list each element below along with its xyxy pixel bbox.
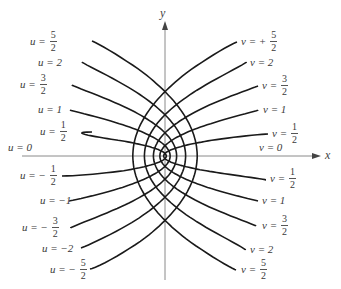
u-label-top-2: u = 32 [20, 73, 47, 96]
v-label-bottom-2: v = 32 [262, 214, 288, 237]
v-label-bottom-0: v = 12 [270, 167, 296, 190]
fraction: 32 [52, 216, 59, 239]
fraction: 32 [281, 74, 288, 97]
v-label-top-2: v = 32 [262, 74, 288, 97]
parabolic-coordinates-diagram: x y u = 0 v = 0 u = 12u = − 12u = 1u = −… [0, 0, 341, 289]
u-label-top-3: u = 2 [38, 57, 62, 68]
u-label-top-0: u = 12 [40, 120, 67, 143]
v-label-bottom-4: v = 52 [241, 258, 267, 281]
u-zero-label: u = 0 [8, 142, 32, 153]
y-axis-arrow-icon [162, 21, 168, 30]
fraction: 12 [291, 122, 298, 145]
u-label-top-4: u = 52 [30, 30, 57, 53]
x-axis-arrow-icon [312, 153, 321, 159]
fraction: 52 [260, 258, 267, 281]
fraction: 52 [50, 30, 57, 53]
x-axis-label: x [325, 148, 330, 163]
v-label-top-0: v = 12 [272, 122, 298, 145]
fraction: 12 [60, 120, 67, 143]
u-curve-family [62, 41, 197, 269]
u-curve-0 [62, 132, 166, 176]
u-label-bottom-2: u = − 32 [22, 216, 59, 239]
v-label-bottom-3: v = 2 [250, 244, 273, 255]
v-label-top-4: v = + 52 [241, 30, 277, 53]
v-label-top-3: v = 2 [250, 57, 273, 68]
u-label-bottom-1: u = −1 [40, 195, 71, 206]
fraction: 32 [40, 73, 47, 96]
fraction: 52 [270, 30, 277, 53]
v-label-bottom-1: v = 1 [262, 195, 285, 206]
v-label-top-1: v = 1 [263, 104, 286, 115]
fraction: 32 [281, 214, 288, 237]
fraction: 12 [289, 167, 296, 190]
u-label-top-1: u = 1 [38, 104, 62, 115]
u-label-bottom-0: u = − 12 [20, 164, 57, 187]
u-label-bottom-4: u = − 52 [50, 258, 87, 281]
fraction: 12 [50, 164, 57, 187]
y-axis-label: y [160, 6, 165, 21]
fraction: 52 [80, 258, 87, 281]
u-label-bottom-3: u = −2 [42, 243, 73, 254]
v-curve-0 [164, 134, 268, 180]
